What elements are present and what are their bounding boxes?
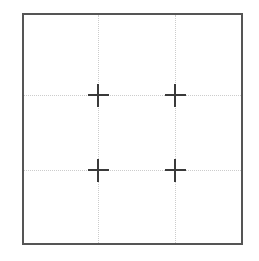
data-point-marker-bottom-left xyxy=(88,159,109,182)
marker-vertical-bar xyxy=(97,84,99,107)
data-point-marker-bottom-right xyxy=(165,159,186,182)
marker-vertical-bar xyxy=(174,84,176,107)
data-point-marker-top-right xyxy=(165,84,186,107)
gridline-horizontal-2 xyxy=(24,170,241,171)
gridline-vertical-1 xyxy=(98,15,99,243)
plot-area xyxy=(24,15,241,243)
figure-canvas xyxy=(0,0,259,261)
marker-vertical-bar xyxy=(174,159,176,182)
data-point-marker-top-left xyxy=(88,84,109,107)
gridline-horizontal-1 xyxy=(24,95,241,96)
gridline-vertical-2 xyxy=(175,15,176,243)
marker-vertical-bar xyxy=(97,159,99,182)
